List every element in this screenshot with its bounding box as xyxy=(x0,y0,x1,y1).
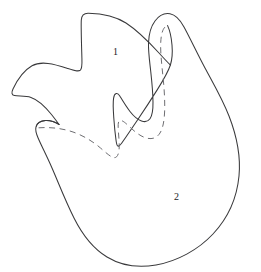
main-outline-path xyxy=(12,13,239,266)
region-label-2: 2 xyxy=(174,192,179,202)
line-drawing-svg xyxy=(0,0,261,272)
region-label-1: 1 xyxy=(113,47,118,57)
figure-canvas: 1 2 xyxy=(0,0,261,272)
